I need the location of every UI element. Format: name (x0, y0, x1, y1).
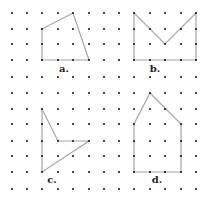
grid-dot (11, 155, 13, 157)
grid-dot (72, 171, 74, 173)
grid-dot (72, 12, 74, 14)
grid-dot (149, 12, 151, 14)
grid-dot (11, 43, 13, 45)
label-c: c. (47, 174, 57, 185)
grid-dot (72, 108, 74, 110)
grid-dot (195, 188, 197, 190)
grid-dot (118, 76, 120, 78)
grid-dot (41, 108, 43, 110)
grid-dot (164, 12, 166, 14)
grid-dots-layer (11, 12, 197, 190)
grid-dot (180, 108, 182, 110)
polygon-c (42, 109, 89, 172)
grid-dot (11, 92, 13, 94)
grid-dot (195, 140, 197, 142)
grid-dot (103, 43, 105, 45)
grid-dot (133, 188, 135, 190)
grid-dot (88, 188, 90, 190)
grid-dot (133, 12, 135, 14)
grid-dot (195, 59, 197, 61)
grid-dot (149, 155, 151, 157)
grid-dot (57, 140, 59, 142)
grid-dot (11, 76, 13, 78)
grid-dot (164, 76, 166, 78)
grid-dot (88, 140, 90, 142)
grid-dot (118, 155, 120, 157)
grid-dot (72, 59, 74, 61)
polygon-a (42, 13, 89, 60)
grid-dot (57, 43, 59, 45)
grid-dot (133, 155, 135, 157)
grid-dot (57, 171, 59, 173)
grid-dot (41, 28, 43, 30)
grid-dot (57, 155, 59, 157)
grid-dot (133, 28, 135, 30)
label-a: a. (59, 63, 69, 74)
grid-dot (26, 28, 28, 30)
grid-dot (133, 59, 135, 61)
grid-dot (57, 188, 59, 190)
grid-dot (41, 59, 43, 61)
grid-dot (180, 12, 182, 14)
grid-dot (118, 43, 120, 45)
grid-dot (88, 92, 90, 94)
grid-dot (180, 59, 182, 61)
grid-dot (195, 92, 197, 94)
grid-dot (195, 123, 197, 125)
grid-dot (103, 123, 105, 125)
grid-dot (149, 123, 151, 125)
grid-dot (26, 123, 28, 125)
grid-dot (26, 59, 28, 61)
grid-dot (118, 140, 120, 142)
grid-dot (103, 12, 105, 14)
grid-dot (26, 76, 28, 78)
grid-dot (164, 140, 166, 142)
grid-dot (118, 92, 120, 94)
grid-dot (164, 108, 166, 110)
grid-dot (88, 28, 90, 30)
grid-dot (26, 92, 28, 94)
grid-dot (195, 108, 197, 110)
grid-dot (180, 140, 182, 142)
grid-dot (195, 28, 197, 30)
grid-dot (72, 123, 74, 125)
grid-dot (103, 59, 105, 61)
grid-dot (164, 92, 166, 94)
grid-dot (149, 76, 151, 78)
grid-dot (180, 188, 182, 190)
grid-dot (11, 59, 13, 61)
grid-dot (72, 188, 74, 190)
grid-dot (180, 28, 182, 30)
grid-dot (103, 76, 105, 78)
grid-dot (133, 92, 135, 94)
grid-dot (88, 108, 90, 110)
grid-dot (133, 123, 135, 125)
grid-dot (118, 28, 120, 30)
grid-dot (149, 92, 151, 94)
label-b: b. (150, 63, 160, 74)
grid-dot (164, 171, 166, 173)
grid-dot (88, 76, 90, 78)
grid-dot (57, 76, 59, 78)
grid-dot (149, 59, 151, 61)
grid-dot (57, 12, 59, 14)
grid-dot (88, 43, 90, 45)
grid-dot (41, 76, 43, 78)
grid-dot (118, 188, 120, 190)
grid-dot (180, 171, 182, 173)
grid-dot (26, 43, 28, 45)
grid-dot (41, 188, 43, 190)
grid-dot (149, 188, 151, 190)
grid-dot (103, 140, 105, 142)
grid-dot (41, 123, 43, 125)
grid-dot (195, 171, 197, 173)
grid-dot (103, 155, 105, 157)
grid-dot (88, 12, 90, 14)
grid-dot (41, 43, 43, 45)
grid-dot (11, 188, 13, 190)
grid-dot (180, 76, 182, 78)
grid-dot (133, 43, 135, 45)
grid-dot (72, 28, 74, 30)
grid-dot (180, 92, 182, 94)
grid-dot (164, 188, 166, 190)
